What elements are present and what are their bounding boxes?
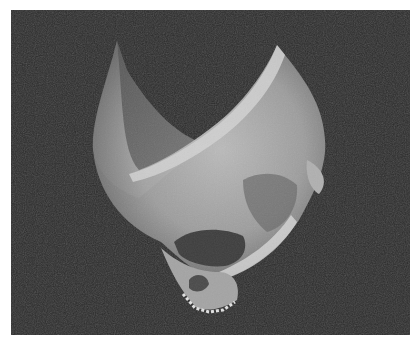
skull-rendering [11, 10, 410, 335]
rendering-frame [11, 10, 410, 335]
